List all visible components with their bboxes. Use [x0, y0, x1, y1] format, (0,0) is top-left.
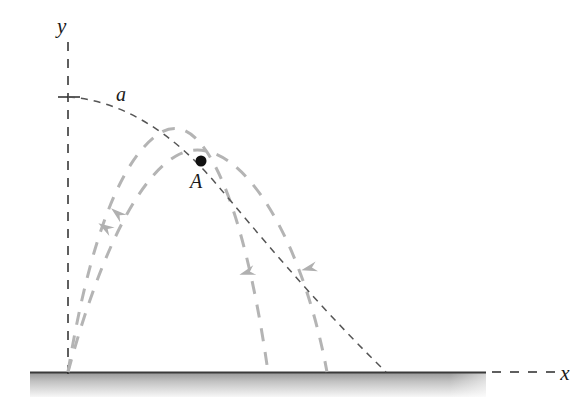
trajectory-outer [68, 128, 268, 372]
ground-surface [30, 373, 486, 398]
envelope-curve-label: a [116, 83, 126, 105]
x-axis-label: x [559, 361, 570, 385]
point-a-label: A [188, 170, 203, 192]
ground-fill-fade [30, 373, 486, 397]
point-a-marker [196, 156, 207, 167]
diagram-canvas: y x a A [0, 0, 585, 404]
projectile-envelope-figure: y x a A [0, 0, 585, 404]
y-axis-label: y [55, 14, 67, 38]
trajectory-outer-path [68, 128, 268, 372]
trajectory-outer-arrow-down [238, 265, 256, 279]
trajectory-inner-arrow-down [300, 261, 318, 275]
